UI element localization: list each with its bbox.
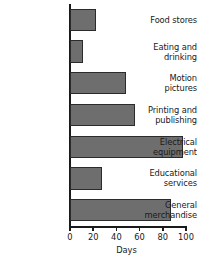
bar-chart: Food storesEating anddrinkingMotionpictu…	[0, 0, 197, 265]
category-label: Electricalequipment	[130, 137, 197, 157]
category-label-line: merchandise	[130, 210, 197, 220]
bar-fill	[70, 167, 102, 189]
x-axis-title-text: Days	[116, 245, 137, 255]
x-axis-tick	[162, 226, 164, 231]
x-axis-tick-label: 100	[171, 232, 197, 243]
category-label: Motionpictures	[130, 73, 197, 93]
x-axis-tick	[69, 226, 71, 231]
x-axis-tick	[139, 226, 141, 231]
bar	[70, 104, 135, 126]
x-axis-tick	[92, 226, 94, 231]
category-label-line: Food stores	[130, 15, 197, 25]
x-axis-title: Days	[0, 245, 197, 255]
category-label: Generalmerchandise	[130, 200, 197, 220]
bar-fill	[70, 104, 135, 126]
bar-fill	[70, 72, 126, 94]
category-label-line: General	[130, 200, 197, 210]
bar-fill	[70, 9, 96, 31]
category-label: Educationalservices	[130, 168, 197, 188]
bar	[70, 9, 96, 31]
bar	[70, 72, 126, 94]
category-label: Eating anddrinking	[130, 42, 197, 62]
category-label: Food stores	[130, 15, 197, 25]
bar	[70, 40, 83, 62]
x-axis-tick	[185, 226, 187, 231]
category-label-line: Educational	[130, 168, 197, 178]
category-label-line: Printing and	[130, 105, 197, 115]
bar	[70, 167, 102, 189]
category-label-line: publishing	[130, 115, 197, 125]
x-axis-tick	[116, 226, 118, 231]
category-label-line: Eating and	[130, 42, 197, 52]
category-label-line: pictures	[130, 83, 197, 93]
category-label-line: Motion	[130, 73, 197, 83]
category-label-line: Electrical	[130, 137, 197, 147]
category-label-line: services	[130, 178, 197, 188]
bar-fill	[70, 40, 83, 62]
category-label: Printing andpublishing	[130, 105, 197, 125]
category-label-line: equipment	[130, 147, 197, 157]
x-axis-line	[69, 226, 187, 228]
category-label-line: drinking	[130, 52, 197, 62]
